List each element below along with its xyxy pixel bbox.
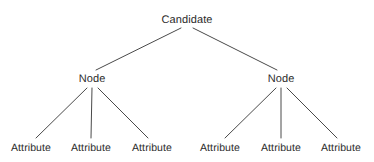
tree-leaf-attribute-3: Attribute (130, 142, 174, 155)
tree-edge-node-left-to-attribute-2 (91, 88, 92, 138)
tree-diagram: CandidateNodeNodeAttributeAttributeAttri… (0, 0, 374, 162)
tree-leaf-attribute-1: Attribute (9, 142, 53, 155)
tree-edge-node-right-to-attribute-4 (225, 88, 276, 138)
tree-edge-root-to-node-right (193, 28, 277, 70)
tree-leaf-attribute-6: Attribute (319, 142, 363, 155)
tree-node-level2-2: Node (266, 73, 297, 86)
tree-edge-root-to-node-left (96, 28, 181, 70)
tree-leaf-attribute-2: Attribute (69, 142, 113, 155)
tree-leaf-attribute-5: Attribute (259, 142, 303, 155)
tree-leaf-attribute-4: Attribute (198, 142, 242, 155)
tree-edge-node-right-to-attribute-6 (287, 88, 337, 138)
tree-edge-node-left-to-attribute-1 (36, 88, 87, 138)
tree-edge-node-left-to-attribute-3 (98, 88, 148, 138)
tree-node-root: Candidate (159, 14, 214, 27)
tree-node-level2-1: Node (77, 73, 108, 86)
